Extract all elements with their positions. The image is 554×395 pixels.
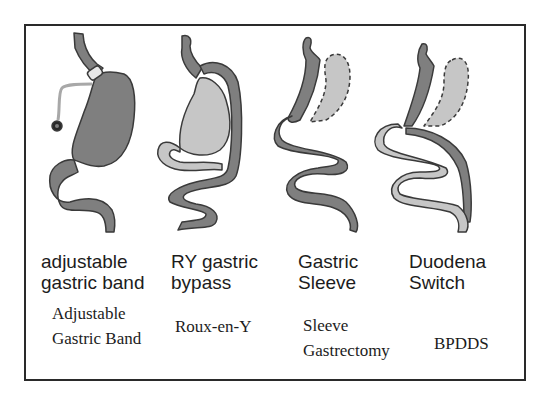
label-sleeve-line2: Sleeve [298, 272, 358, 293]
label-bypass: RY gastric bypass [171, 251, 258, 293]
name-band-line1: Adjustable [52, 301, 141, 326]
name-bypass: Roux-en-Y [175, 314, 251, 339]
name-bypass-line1: Roux-en-Y [175, 314, 251, 339]
label-bypass-line1: RY gastric [171, 251, 258, 272]
name-switch-line1: BPDDS [434, 331, 489, 356]
band-intestine [50, 160, 115, 232]
name-band-line2: Gastric Band [52, 326, 141, 351]
band-stomach [72, 72, 135, 166]
label-band-line1: adjustable [41, 251, 145, 272]
sleeve-tube-stomach [288, 38, 320, 123]
label-sleeve: Gastric Sleeve [298, 251, 358, 293]
name-switch: BPDDS [434, 331, 489, 356]
label-switch-line1: Duodena [409, 251, 486, 272]
sleeve-intestine [274, 116, 357, 232]
label-switch-line2: Switch [409, 272, 486, 293]
label-band: adjustable gastric band [41, 251, 145, 293]
label-sleeve-line1: Gastric [298, 251, 358, 272]
name-sleeve-line1: Sleeve [303, 313, 390, 338]
label-bypass-line2: bypass [171, 272, 258, 293]
switch-biliary-limb [375, 124, 468, 232]
name-sleeve-line2: Gastrectomy [303, 338, 390, 363]
name-sleeve: Sleeve Gastrectomy [303, 313, 390, 363]
bypass-esophagus [182, 36, 202, 78]
label-switch: Duodena Switch [409, 251, 486, 293]
label-band-line2: gastric band [41, 272, 145, 293]
bypass-pouch [180, 78, 230, 155]
switch-sleeve-stomach [404, 44, 434, 126]
name-band: Adjustable Gastric Band [52, 301, 141, 351]
